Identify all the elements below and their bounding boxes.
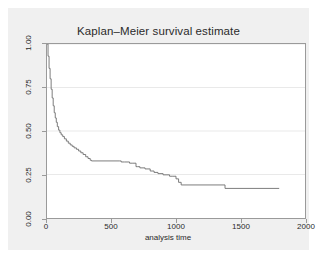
survival-curves xyxy=(47,44,279,188)
page-title: Kaplan–Meier survival estimate xyxy=(8,25,309,37)
survival-step-line xyxy=(47,44,279,188)
x-axis-label: analysis time xyxy=(38,233,298,242)
y-tick-label: 1.00 xyxy=(24,35,33,51)
y-tick-label: 0.25 xyxy=(24,167,33,183)
x-tick-label: 1500 xyxy=(232,222,250,231)
x-axis-ticks: 0500100015002000 xyxy=(38,220,314,234)
x-tick-label: 500 xyxy=(104,222,117,231)
kaplan-meier-figure: Kaplan–Meier survival estimate 0.000.250… xyxy=(0,0,317,258)
x-tick-label: 0 xyxy=(44,222,48,231)
y-tick-label: 0.75 xyxy=(24,79,33,95)
graph-region: Kaplan–Meier survival estimate 0.000.250… xyxy=(8,8,309,250)
y-tick-mark xyxy=(42,175,46,176)
y-tick-label: 0.50 xyxy=(24,123,33,139)
y-tick-label: 0.00 xyxy=(24,211,33,227)
plot-area xyxy=(46,43,306,219)
survival-curve-svg xyxy=(47,44,305,218)
x-tick-label: 1000 xyxy=(167,222,185,231)
y-tick-mark xyxy=(42,131,46,132)
y-axis-ticks: 0.000.250.500.751.00 xyxy=(18,38,46,228)
y-tick-mark xyxy=(42,87,46,88)
x-tick-label: 2000 xyxy=(297,222,315,231)
y-tick-mark xyxy=(42,43,46,44)
